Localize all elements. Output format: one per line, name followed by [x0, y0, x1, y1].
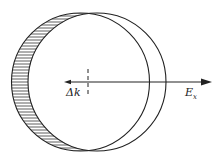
hatched-crescent-region — [0, 0, 219, 161]
field-label: Ex — [184, 86, 197, 101]
field-arrowhead-icon — [201, 79, 212, 86]
fermi-sphere-diagram: Δk Ex — [0, 0, 219, 161]
field-subscript: x — [193, 93, 197, 101]
delta-k-label: Δk — [65, 86, 81, 99]
